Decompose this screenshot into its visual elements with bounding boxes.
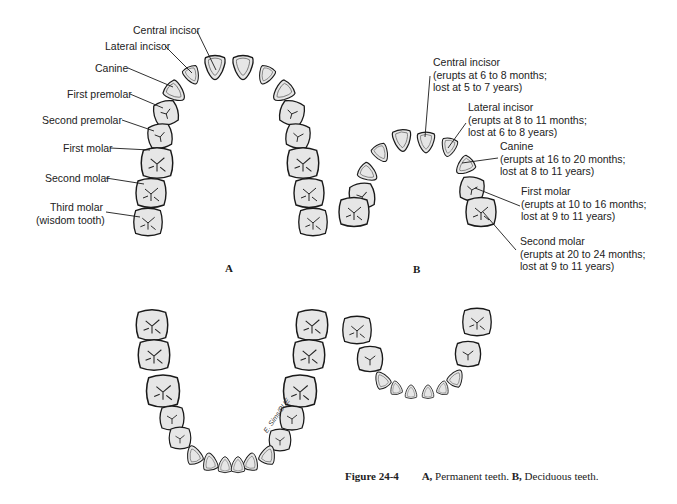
label-central-incisor: Central incisor xyxy=(133,24,200,37)
name: Central incisor xyxy=(433,56,547,69)
name: Canine xyxy=(500,140,626,153)
label-second-molar: Second molar xyxy=(45,172,110,185)
lost: lost at 9 to 11 years) xyxy=(520,260,646,273)
deciduous-lower-arch xyxy=(343,308,492,398)
label-first-molar: First molar xyxy=(63,142,113,155)
name: First molar xyxy=(521,185,647,198)
label-deciduous-canine: Canine (erupts at 16 to 20 months; lost … xyxy=(500,140,626,178)
lost: lost at 6 to 8 years) xyxy=(468,126,587,139)
figure-number: Figure 24-4 xyxy=(345,470,399,482)
label-second-premolar: Second premolar xyxy=(42,114,122,127)
label-canine: Canine xyxy=(95,62,128,75)
lost: lost at 8 to 11 years) xyxy=(500,165,626,178)
label-deciduous-lateral-incisor: Lateral incisor (erupts at 8 to 11 month… xyxy=(468,101,587,139)
lost: lost at 5 to 7 years) xyxy=(433,81,547,94)
name: Second molar xyxy=(520,235,646,248)
permanent-lower-arch xyxy=(136,310,328,473)
erupts: (erupts at 10 to 16 months; xyxy=(521,198,647,211)
caption-a-text: Permanent teeth. xyxy=(432,470,511,482)
erupts: (erupts at 6 to 8 months; xyxy=(433,69,547,82)
name: Lateral incisor xyxy=(468,101,587,114)
caption-b-text: Deciduous teeth. xyxy=(522,470,599,482)
caption-a-letter: A, xyxy=(422,470,433,482)
lost: lost at 9 to 11 years) xyxy=(521,210,647,223)
label-deciduous-first-molar: First molar (erupts at 10 to 16 months; … xyxy=(521,185,647,223)
label-deciduous-second-molar: Second molar (erupts at 20 to 24 months;… xyxy=(520,235,646,273)
label-lateral-incisor: Lateral incisor xyxy=(105,40,170,53)
erupts: (erupts at 20 to 24 months; xyxy=(520,248,646,261)
label-third-molar: Third molar (wisdom tooth) xyxy=(36,201,103,226)
deciduous-upper-arch xyxy=(339,129,496,227)
label-first-premolar: First premolar xyxy=(67,88,132,101)
label-third-molar-name: Third molar xyxy=(36,201,103,214)
erupts: (erupts at 8 to 11 months; xyxy=(468,114,587,127)
caption-b-letter: B, xyxy=(512,470,522,482)
panel-label-a: A xyxy=(225,262,233,274)
figure-caption: Figure 24-4 A, Permanent teeth. B, Decid… xyxy=(345,470,599,482)
label-deciduous-central-incisor: Central incisor (erupts at 6 to 8 months… xyxy=(433,56,547,94)
panel-label-b: B xyxy=(413,263,420,275)
erupts: (erupts at 16 to 20 months; xyxy=(500,153,626,166)
label-third-molar-note: (wisdom tooth) xyxy=(36,214,103,227)
